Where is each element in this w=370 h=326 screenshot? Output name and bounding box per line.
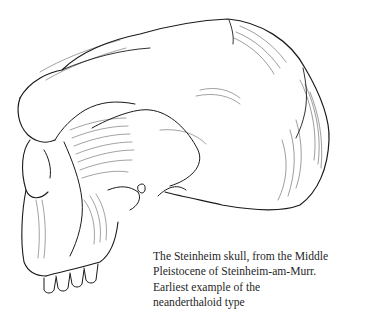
caption-line-4: neanderthaloid type (153, 295, 368, 310)
figure-caption: The Steinheim skull, from the Middle Ple… (153, 249, 368, 310)
teeth (44, 264, 98, 293)
caption-line-2: Pleistocene of Steinheim-am-Murr. (153, 264, 368, 279)
caption-line-3: Earliest example of the (153, 280, 368, 295)
caption-line-1: The Steinheim skull, from the Middle (153, 249, 368, 264)
